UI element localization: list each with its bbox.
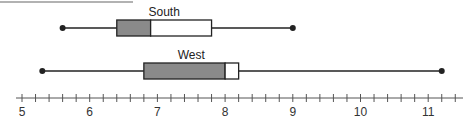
min-point (60, 25, 66, 31)
lower-quartile-box (117, 20, 151, 36)
max-point (439, 68, 445, 74)
tick-label: 5 (19, 105, 26, 119)
box-plot-chart: South West 567891011 (0, 0, 475, 123)
lower-quartile-box (144, 63, 225, 79)
max-point (290, 25, 296, 31)
box-plot-south: South (60, 5, 296, 36)
tick-label: 8 (222, 105, 229, 119)
tick-label: 9 (289, 105, 296, 119)
min-point (39, 68, 45, 74)
series-label-west: West (178, 48, 206, 62)
series-label-south: South (148, 5, 179, 19)
upper-quartile-box (151, 20, 212, 36)
tick-label: 10 (354, 105, 368, 119)
tick-label: 7 (154, 105, 161, 119)
x-axis: 567891011 (16, 94, 463, 119)
upper-quartile-box (225, 63, 239, 79)
tick-label: 6 (86, 105, 93, 119)
tick-label: 11 (422, 105, 435, 119)
box-plot-west: West (39, 48, 444, 79)
